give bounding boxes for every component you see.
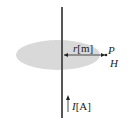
current-unit: [A] xyxy=(76,100,91,112)
point-p-dot xyxy=(105,54,108,57)
field-h-label: H xyxy=(110,58,118,69)
current-label: I[A] xyxy=(72,101,91,112)
radius-label: r[m] xyxy=(73,43,93,54)
current-arrow-icon xyxy=(66,95,70,112)
radius-unit: [m] xyxy=(77,42,93,54)
point-p-label: P xyxy=(108,45,115,56)
